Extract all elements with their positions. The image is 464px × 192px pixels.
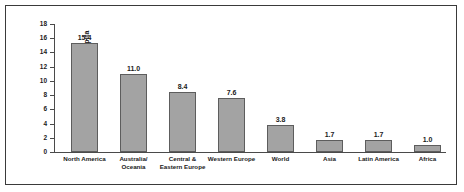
bar-group: 15.4North America: [60, 24, 109, 152]
x-axis-line: [54, 152, 446, 153]
y-axis-line: [54, 24, 55, 152]
y-axis-tick-label: 6: [43, 105, 47, 112]
y-axis-tick-label: 12: [40, 63, 47, 70]
chart-frame: Tons per capita 024681012141618 15.4Nort…: [5, 5, 457, 185]
y-axis-tick: 6: [50, 109, 54, 110]
y-axis-tick-label: 16: [40, 34, 47, 41]
y-axis-tick-label: 14: [40, 48, 47, 55]
y-axis-tick: 18: [50, 24, 54, 25]
bar-value-label: 1.0: [403, 136, 452, 143]
y-axis-tick: 16: [50, 38, 54, 39]
y-axis-tick-label: 8: [43, 91, 47, 98]
plot-area: Tons per capita 024681012141618 15.4Nort…: [54, 24, 446, 152]
bar-group: 3.8World: [256, 24, 305, 152]
bar-group: 11.0Australia/Oceania: [109, 24, 158, 152]
bar-group: 1.7Asia: [305, 24, 354, 152]
y-axis-tick: 0: [50, 152, 54, 153]
bar-value-label: 1.7: [354, 131, 403, 138]
bar-group: 8.4Central &Eastern Europe: [158, 24, 207, 152]
bar[interactable]: [120, 74, 147, 152]
bar[interactable]: [316, 140, 343, 152]
y-axis-tick: 10: [50, 81, 54, 82]
bar-value-label: 15.4: [60, 34, 109, 41]
bar[interactable]: [414, 145, 441, 152]
bar-group: 7.6Western Europe: [207, 24, 256, 152]
y-axis-tick: 12: [50, 67, 54, 68]
y-axis-tick: 2: [50, 138, 54, 139]
bar[interactable]: [218, 98, 245, 152]
y-axis-tick: 14: [50, 52, 54, 53]
bar[interactable]: [169, 92, 196, 152]
bar-group: 1.7Latin America: [354, 24, 403, 152]
bar-value-label: 1.7: [305, 131, 354, 138]
bar-group: 1.0Africa: [403, 24, 452, 152]
y-axis-tick-label: 2: [43, 134, 47, 141]
bar-value-label: 11.0: [109, 65, 158, 72]
y-axis-tick-label: 4: [43, 120, 47, 127]
y-axis-tick-label: 0: [43, 148, 47, 155]
bar[interactable]: [365, 140, 392, 152]
y-axis-tick-label: 10: [40, 77, 47, 84]
bar[interactable]: [71, 43, 98, 153]
y-axis-tick-label: 18: [40, 20, 47, 27]
bar-value-label: 7.6: [207, 89, 256, 96]
y-axis-tick: 8: [50, 95, 54, 96]
bar-value-label: 8.4: [158, 83, 207, 90]
bar[interactable]: [267, 125, 294, 152]
y-axis-tick: 4: [50, 124, 54, 125]
x-axis-category-line: Africa: [399, 155, 456, 163]
bar-value-label: 3.8: [256, 116, 305, 123]
x-axis-category-line: Eastern Europe: [154, 163, 211, 171]
x-axis-category-label: Africa: [399, 155, 456, 163]
